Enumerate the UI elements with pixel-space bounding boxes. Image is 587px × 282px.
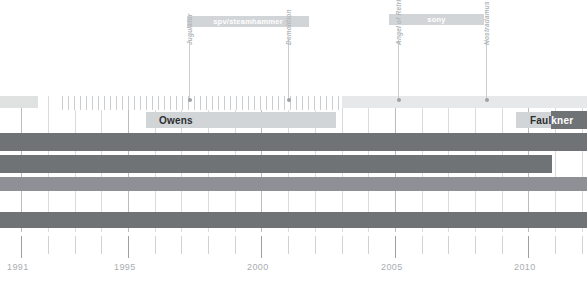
album-marker-label-1[interactable]: Demolition (285, 9, 292, 45)
axis-tick-2007 (448, 236, 449, 254)
axis-tick-2010 (528, 236, 529, 258)
axis-tick-2002 (315, 236, 316, 254)
album-marker-dot-3 (485, 98, 489, 102)
axis-label-2000: 2000 (247, 262, 269, 272)
axis-tick-2005 (395, 236, 396, 258)
member-bar-3[interactable] (0, 177, 587, 191)
axis-tick-2000 (261, 236, 262, 258)
album-marker-dot-1 (287, 98, 291, 102)
axis-tick-1998 (208, 236, 209, 254)
record-label-name-sony: sony (427, 15, 446, 24)
axis-tick-1997 (181, 236, 182, 254)
member-bar-2[interactable] (0, 155, 552, 173)
vocalist-label-owens: Owens (159, 116, 193, 126)
album-marker-line-1 (288, 40, 289, 100)
axis-tick-2009 (502, 236, 503, 254)
axis-tick-2012 (582, 236, 583, 254)
axis-tick-2004 (368, 236, 369, 254)
axis-tick-1992 (48, 236, 49, 254)
album-marker-line-0 (189, 40, 190, 100)
axis-tick-1995 (128, 236, 129, 258)
axis-tick-1999 (235, 236, 236, 254)
album-marker-dot-0 (188, 98, 192, 102)
member-bar-5[interactable] (0, 212, 587, 228)
album-marker-dot-2 (397, 98, 401, 102)
album-marker-line-2 (398, 40, 399, 100)
axis-tick-1994 (101, 236, 102, 254)
axis-label-1991: 1991 (7, 262, 29, 272)
axis-label-1995: 1995 (114, 262, 136, 272)
axis-label-2005: 2005 (381, 262, 403, 272)
member-bar-1[interactable] (0, 133, 587, 151)
record-label-chip-sony[interactable]: sony (389, 14, 484, 25)
album-marker-line-3 (486, 40, 487, 100)
axis-label-2010: 2010 (514, 262, 536, 272)
vocalist-label-faulkner-inverse: Faulkner (551, 116, 573, 126)
axis-tick-1991 (21, 236, 22, 258)
album-marker-label-2[interactable]: Angel of Retribution (395, 0, 402, 45)
band-hatched-period (62, 96, 342, 110)
record-label-name-spv: spv/steamhammer (213, 17, 283, 26)
axis-tick-1996 (155, 236, 156, 254)
axis-tick-2001 (288, 236, 289, 254)
axis-tick-1993 (75, 236, 76, 254)
band-top-light-left (0, 96, 38, 108)
axis-tick-2011 (555, 236, 556, 254)
timeline-figure: Owens Faulkner Faulkner spv/steamhammer … (0, 0, 587, 282)
axis-tick-2008 (475, 236, 476, 254)
album-marker-label-0[interactable]: Jugulator (186, 14, 193, 45)
axis-tick-2003 (342, 236, 343, 254)
axis-tick-2006 (422, 236, 423, 254)
vocalist-label-faulkner-inverse-wrap: Faulkner (551, 112, 587, 128)
band-top-light-right (342, 96, 587, 108)
album-marker-label-3[interactable]: Nostradamus (483, 1, 490, 45)
